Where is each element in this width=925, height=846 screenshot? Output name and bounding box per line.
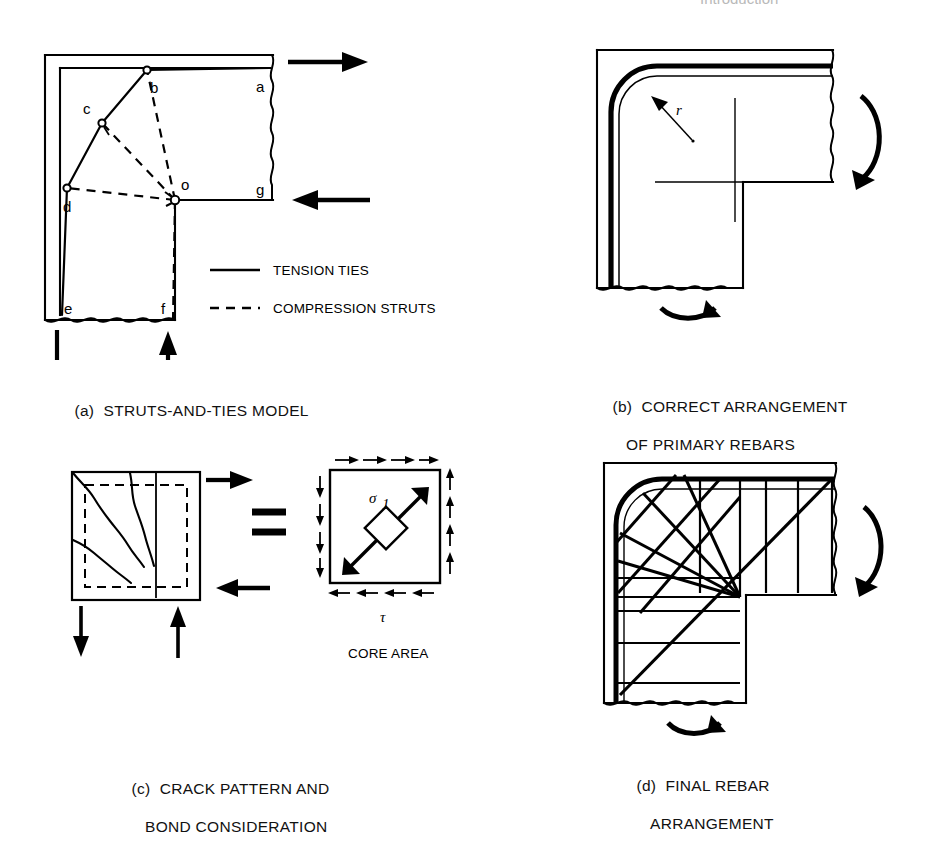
figure-root: Introduction xyxy=(0,0,925,846)
panel-a-struts-and-ties: a b c d e f g o TENSION TIES COMPRESSION… xyxy=(20,30,440,360)
core-area-dashed-box xyxy=(85,485,187,587)
panel-d-caption-line2: ARRANGEMENT xyxy=(618,814,774,833)
panel-c-crack-pattern: σ 1 τ CORE AREA xyxy=(30,440,490,740)
node-label-e: e xyxy=(64,300,72,317)
tie-c-d xyxy=(67,123,102,188)
arrow-bottom-up xyxy=(159,331,177,360)
core-area-label: CORE AREA xyxy=(348,646,429,661)
arrow-top-right xyxy=(288,52,368,72)
radius-arrow-head xyxy=(651,96,668,111)
legend-label-compression-struts: COMPRESSION STRUTS xyxy=(273,301,436,316)
break-line-right xyxy=(831,50,834,182)
node-label-b: b xyxy=(150,79,158,96)
crack-1 xyxy=(73,473,144,567)
panel-c-caption-line1: CRACK PATTERN AND xyxy=(160,780,330,797)
panel-c-left-force-arrows xyxy=(73,471,270,658)
panel-d-caption-line1: FINAL REBAR xyxy=(666,777,770,794)
node-label-c: c xyxy=(83,100,91,117)
crack-3 xyxy=(73,540,131,583)
panel-d-drawing xyxy=(580,445,925,755)
panel-c-caption-line2: BOND CONSIDERATION xyxy=(113,817,330,836)
panel-b-caption-line1: CORRECT ARRANGEMENT xyxy=(642,398,848,415)
panel-c-tag: (c) xyxy=(131,780,150,797)
panel-d-caption: (d) FINAL REBAR ARRANGEMENT xyxy=(618,757,774,846)
page-header-faded: Introduction xyxy=(700,0,778,4)
cracked-panel xyxy=(72,471,270,658)
arrow-down-left xyxy=(73,606,89,657)
sigma-subscript: 1 xyxy=(382,496,390,512)
node-label-o: o xyxy=(181,176,189,193)
sigma-symbol: σ xyxy=(369,490,377,506)
shear-arrows-right xyxy=(446,468,454,574)
moment-arc-right xyxy=(855,507,881,597)
panel-square-outline xyxy=(72,472,200,600)
moment-arc-right xyxy=(852,96,879,190)
panel-d-final-rebar-arrangement xyxy=(580,445,925,755)
panel-a-caption: (a) STRUTS-AND-TIES MODEL xyxy=(56,382,309,439)
arrow-right-top xyxy=(206,471,253,489)
moment-arcs xyxy=(661,96,879,318)
shear-arrows-top xyxy=(335,456,439,464)
moment-arc-bottom xyxy=(668,715,726,733)
vertical-rebars xyxy=(700,479,832,597)
legend-label-tension-ties: TENSION TIES xyxy=(273,263,369,278)
node-b-dot xyxy=(143,66,150,73)
arrow-up-mid xyxy=(170,606,186,658)
panel-c-caption: (c) CRACK PATTERN AND BOND CONSIDERATION xyxy=(113,760,330,846)
node-label-f: f xyxy=(161,300,166,317)
primary-rebar-bent xyxy=(611,66,833,288)
node-label-a: a xyxy=(256,78,265,95)
tau-symbol: τ xyxy=(380,609,386,625)
legend-a: TENSION TIES COMPRESSION STRUTS xyxy=(210,263,436,316)
node-o-dot xyxy=(171,196,179,204)
panel-a-caption-line1: STRUTS-AND-TIES MODEL xyxy=(104,402,309,419)
moment-arc-bottom xyxy=(661,300,721,318)
radius-center-dot xyxy=(691,139,694,142)
shear-arrows-left xyxy=(316,476,324,578)
panel-b-tag: (b) xyxy=(612,398,632,415)
stress-element-diamond xyxy=(365,507,407,549)
equals-sign xyxy=(252,512,286,532)
break-line-right xyxy=(834,463,837,595)
panel-b-correct-rebar-arrangement: r xyxy=(575,30,925,360)
arrow-left-bottom xyxy=(216,579,270,597)
shear-arrows-bottom xyxy=(328,589,434,597)
radius-callout: r xyxy=(651,96,695,143)
core-area-element: σ 1 τ xyxy=(316,456,454,625)
break-line-right xyxy=(271,55,274,200)
node-d-dot xyxy=(63,184,70,191)
node-c-dot xyxy=(98,119,105,126)
strut-o-d xyxy=(67,188,175,200)
counter-diagonal-3 xyxy=(616,475,676,543)
tie-b-c xyxy=(102,70,147,123)
panel-c-drawing: σ 1 τ CORE AREA xyxy=(30,440,490,740)
panel-a-tag: (a) xyxy=(74,402,94,419)
sigma1-label-group: σ 1 xyxy=(369,490,390,512)
radius-label: r xyxy=(676,102,682,118)
panel-d-tag: (d) xyxy=(636,777,656,794)
node-label-g: g xyxy=(256,181,264,198)
strut-o-c xyxy=(102,123,175,200)
arrow-bottom-down xyxy=(48,330,66,360)
panel-b-drawing: r xyxy=(575,30,925,360)
node-label-d: d xyxy=(63,198,71,215)
panel-a-drawing: a b c d e f g o TENSION TIES COMPRESSION… xyxy=(20,30,440,360)
arrow-mid-left xyxy=(292,190,370,210)
